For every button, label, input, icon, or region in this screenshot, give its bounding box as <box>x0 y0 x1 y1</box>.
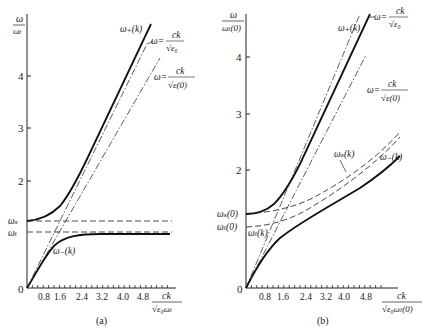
level-label-a-upper: ωₛ <box>8 216 18 226</box>
upper-polariton-curve-b <box>246 14 370 214</box>
curve-label-a-lower: ω₋(k) <box>53 246 75 257</box>
light-line-eps-static-b <box>246 55 366 288</box>
light-label-a-static-num: ck <box>176 66 185 76</box>
light-label-a-static-lhs: ω= <box>154 72 167 82</box>
xtick-b-4.0: 4.0 <box>338 292 350 302</box>
light-label-a-eps0-den: √ε₀ <box>166 43 178 53</box>
ylabel-a-den: ωₜ <box>13 26 22 36</box>
xtick-b-2.4: 2.4 <box>300 292 312 302</box>
level-label-a-lower: ωₜ <box>8 228 18 238</box>
xtick-a-1.6: 1.6 <box>54 292 66 302</box>
panel-caption-a: (a) <box>96 315 107 327</box>
ytick-a-4: 4 <box>18 70 24 82</box>
light-label-b-eps0-den: √ε₀ <box>389 19 401 29</box>
ytick-b-3: 3 <box>236 108 242 120</box>
s-mode-curve-b <box>246 132 400 214</box>
ytick-b-2: 2 <box>236 164 242 176</box>
xlabel-b-num: ck <box>397 290 406 301</box>
light-line-eps-static-a <box>27 58 160 288</box>
xtick-a-2.4: 2.4 <box>76 292 88 302</box>
ytick-b-4: 4 <box>236 51 242 63</box>
light-label-b-static-lhs: ω= <box>367 85 380 95</box>
ylabel-b-den: ωₗ(0) <box>222 23 241 33</box>
curve-label-b-l-mode: ωₗ(k) <box>248 228 268 239</box>
xtick-a-0.8: 0.8 <box>38 292 50 302</box>
xtick-a-4.0: 4.0 <box>117 292 129 302</box>
light-label-b-static-den: √ε(0) <box>381 93 400 103</box>
curve-label-b-lower: ω₋(k) <box>380 152 402 163</box>
light-line-eps0-a <box>27 42 148 288</box>
curve-label-a-upper: ω₊(k) <box>120 24 142 35</box>
panel-b: 4 3 2 0 ω ωₗ(0) 0.8 1.6 2.4 3.2 4.0 <box>217 6 422 327</box>
level-label-b-upper: ωₛ(0) <box>217 209 238 220</box>
panel-caption-b: (b) <box>317 315 329 327</box>
light-label-a-eps0-num: ck <box>172 30 181 40</box>
light-label-a-static-den: √ε(0) <box>168 80 187 90</box>
ytick-a-3: 3 <box>18 122 24 134</box>
light-label-b-eps0-lhs: ω= <box>374 12 387 22</box>
curve-label-b-s-mode: ωₛ(k) <box>334 149 354 160</box>
ylabel-a-num: ω <box>16 13 23 24</box>
xtick-a-4.8: 4.8 <box>137 292 149 302</box>
xlabel-b-den: √ε₀ωₗ(0) <box>382 304 413 314</box>
lower-polariton-curve-b <box>246 156 400 288</box>
origin-a: 0 <box>18 283 24 295</box>
l-mode-curve-b <box>246 137 400 227</box>
ytick-a-2: 2 <box>18 175 24 187</box>
lower-polariton-curve-a <box>27 234 170 288</box>
ylabel-b-num: ω <box>230 9 237 20</box>
curve-label-b-upper: ω₊(k) <box>338 23 360 34</box>
xtick-a-3.2: 3.2 <box>96 292 108 302</box>
xtick-b-0.8: 0.8 <box>259 292 271 302</box>
xlabel-a-num: ck <box>162 290 171 301</box>
upper-polariton-curve-a <box>27 24 151 221</box>
dispersion-figure: 4 3 2 0 ω ωₜ 0.8 1.6 2.4 3.2 <box>0 0 431 334</box>
light-label-a-eps0-lhs: ω= <box>151 36 164 46</box>
xtick-b-1.6: 1.6 <box>277 292 289 302</box>
panel-a: 4 3 2 0 ω ωₜ 0.8 1.6 2.4 3.2 <box>8 13 195 327</box>
level-label-b-lower: ωₗ(0) <box>217 222 237 233</box>
xlabel-a-den: √ε₀ωₜ <box>152 304 173 314</box>
xtick-b-4.8: 4.8 <box>360 292 372 302</box>
light-label-b-eps0-num: ck <box>396 6 405 16</box>
xtick-b-3.2: 3.2 <box>320 292 332 302</box>
origin-b: 0 <box>237 283 243 295</box>
light-label-b-static-num: ck <box>388 79 397 89</box>
